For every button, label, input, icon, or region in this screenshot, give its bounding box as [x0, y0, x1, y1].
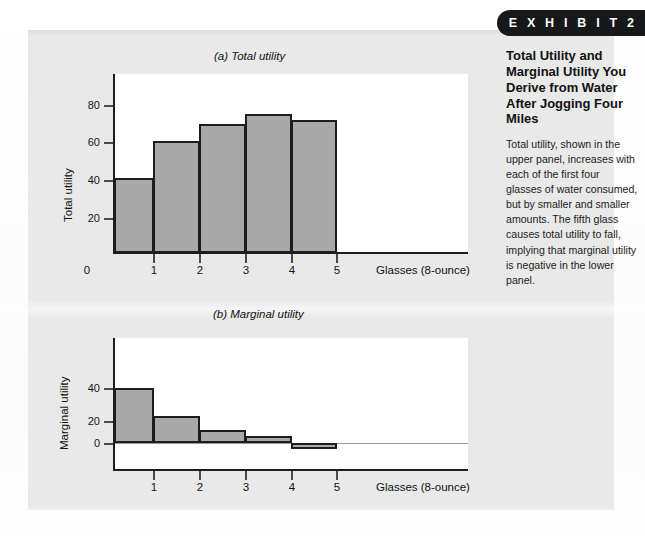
chart-a-xtick-mark-4 — [291, 254, 293, 263]
chart-b-xlabel: Glasses (8-ounce) — [376, 481, 470, 493]
chart-b-bar-2 — [153, 416, 200, 443]
chart-a-yaxis — [113, 74, 115, 254]
chart-a-xtick-mark-3 — [245, 254, 247, 263]
page-canvas: E X H I B I T 2 Total Utility and Margin… — [0, 0, 645, 544]
chart-b-xtick-5: 5 — [328, 481, 346, 493]
chart-b-ytick-40: 40 — [74, 382, 100, 394]
chart-b-xtick-mark-3 — [245, 471, 247, 480]
chart-a-ylabel: Total utility — [62, 168, 74, 222]
chart-a-xtick-mark-1 — [153, 254, 155, 263]
chart-a-xtick-0: 0 — [78, 264, 96, 276]
chart-a-xtick-5: 5 — [328, 264, 346, 276]
exhibit-banner-label: E X H I B I T 2 — [505, 16, 638, 30]
chart-a-bar-5 — [291, 120, 337, 253]
chart-b-ytick-20: 20 — [74, 415, 100, 427]
chart-b-ylabel: Marginal utility — [58, 377, 70, 451]
exhibit-title: Total Utility and Marginal Utility You D… — [506, 48, 638, 127]
chart-b-bar-4 — [245, 436, 292, 443]
chart-a-xtick-2: 2 — [191, 264, 209, 276]
exhibit-banner: E X H I B I T 2 — [497, 10, 645, 36]
chart-a-ytick-20: 20 — [74, 212, 100, 224]
chart-b-xtick-3: 3 — [237, 481, 255, 493]
chart-a-bar-1 — [114, 178, 154, 253]
chart-a-xtick-3: 3 — [237, 264, 255, 276]
chart-a-ytick-80: 80 — [74, 99, 100, 111]
chart-a-bar-3 — [199, 124, 246, 253]
chart-b-title: (b) Marginal utility — [213, 308, 304, 320]
chart-b-plot-area — [114, 338, 468, 470]
chart-b-yaxis — [113, 338, 115, 470]
chart-a-ytick-60: 60 — [74, 136, 100, 148]
chart-b-ytick-0: 0 — [74, 437, 100, 449]
chart-a-xtick-4: 4 — [283, 264, 301, 276]
chart-b-bar-5 — [291, 443, 337, 449]
chart-a-xtick-1: 1 — [145, 264, 163, 276]
chart-b-xtick-mark-2 — [199, 471, 201, 480]
chart-b-bar-1 — [114, 388, 154, 443]
chart-a-bar-4 — [245, 114, 292, 253]
chart-a-xlabel: Glasses (8-ounce) — [376, 264, 470, 276]
caption-column: Total Utility and Marginal Utility You D… — [506, 48, 638, 288]
chart-a-title: (a) Total utility — [214, 50, 285, 62]
exhibit-description: Total utility, shown in the upper panel,… — [506, 137, 638, 287]
chart-b-xtick-mark-5 — [336, 471, 338, 480]
chart-b-xtick-4: 4 — [283, 481, 301, 493]
chart-b-xtick-mark-1 — [153, 471, 155, 480]
chart-b-xtick-1: 1 — [145, 481, 163, 493]
chart-b-xtick-2: 2 — [191, 481, 209, 493]
chart-a-xtick-mark-5 — [336, 254, 338, 263]
chart-a-bar-2 — [153, 141, 200, 253]
chart-a-xtick-mark-2 — [199, 254, 201, 263]
chart-b-bar-3 — [199, 430, 246, 443]
chart-a-ytick-40: 40 — [74, 174, 100, 186]
chart-b-xtick-mark-4 — [291, 471, 293, 480]
